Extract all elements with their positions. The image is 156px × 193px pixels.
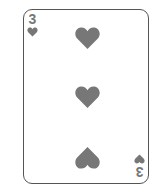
heart-pip-middle <box>74 85 101 109</box>
rank-label: 3 <box>29 12 37 26</box>
rank-label: 3 <box>136 165 144 179</box>
heart-icon <box>27 27 38 37</box>
heart-pip-top <box>74 26 101 50</box>
playing-card[interactable]: 3 3 <box>23 9 149 184</box>
heart-icon <box>134 154 145 164</box>
bottom-right-index: 3 <box>134 154 145 179</box>
heart-pip-bottom <box>74 146 101 170</box>
heart-icon <box>74 26 101 50</box>
heart-icon <box>74 146 101 170</box>
heart-icon <box>74 85 101 109</box>
top-left-index: 3 <box>27 12 38 37</box>
